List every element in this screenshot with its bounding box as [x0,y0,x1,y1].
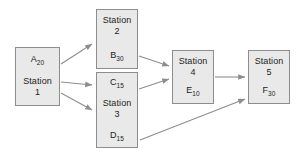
node-station-3[interactable]: C15 Station 3 D15 [96,72,138,148]
node-station-5[interactable]: Station 5 F30 [248,50,290,104]
station-3-task-bottom: D15 [110,130,124,141]
node-station-2[interactable]: Station 2 B30 [96,9,138,69]
station-4-name: Station 4 [179,56,208,78]
edge-station3-c-to-station4 [139,79,169,89]
station-1-number: 1 [23,87,52,98]
station-5-name: Station 5 [255,56,284,78]
station-1-task: A20 [31,54,45,65]
station-5-task-time: 30 [268,90,275,97]
station-2-number: 2 [103,26,132,37]
diagram-canvas: A20 Station 1 Station 2 B30 C15 Station … [0,0,302,162]
station-3-task-top: C15 [110,77,124,88]
station-3-task-bottom-label: D [110,130,117,140]
station-2-word: Station [103,15,132,26]
node-station-4[interactable]: Station 4 E10 [172,50,214,104]
edge-station1-to-station3-d [61,93,92,110]
station-2-name: Station 2 [103,15,132,37]
node-station-1[interactable]: A20 Station 1 [15,47,60,106]
station-3-task-bottom-time: 15 [117,135,124,142]
station-5-task: F30 [262,85,275,96]
station-5-number: 5 [255,67,284,78]
station-3-word: Station [103,98,132,109]
station-1-name: Station 1 [23,76,52,98]
edge-station1-to-station3-c [61,82,92,85]
edge-station3-d-to-station5 [140,99,245,140]
station-2-task-time: 30 [116,55,123,62]
station-3-task-top-label: C [110,77,117,87]
station-2-task: B30 [110,50,124,61]
station-1-word: Station [23,76,52,87]
edge-station1-to-station2 [61,44,92,64]
station-1-task-time: 20 [37,59,44,66]
station-4-task-time: 10 [192,90,199,97]
station-3-name: Station 3 [103,98,132,120]
station-4-word: Station [179,56,208,67]
station-4-number: 4 [179,67,208,78]
station-4-task: E10 [186,85,200,96]
station-3-number: 3 [103,109,132,120]
edge-station2-to-station4 [139,56,169,66]
station-5-word: Station [255,56,284,67]
station-3-task-top-time: 15 [117,82,124,89]
